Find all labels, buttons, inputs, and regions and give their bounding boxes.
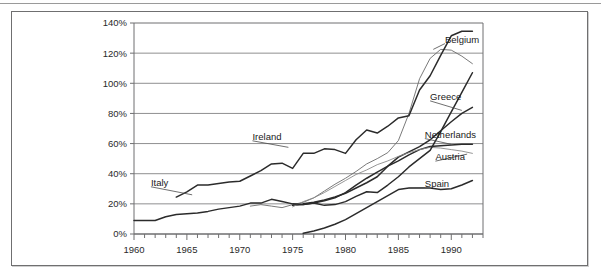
series-label-austria: Austria <box>435 151 465 162</box>
chart-page: 0%20%40%60%80%100%120%140% 1960196519701… <box>0 0 601 277</box>
x-tick-label: 1990 <box>441 244 462 255</box>
series-label-ireland: Ireland <box>252 131 281 142</box>
x-axis-tick-labels: 1960196519701975198019851990 <box>123 244 461 255</box>
y-axis-tick-labels: 0%20%40%60%80%100%120%140% <box>103 17 128 239</box>
series-line-italy <box>134 73 472 221</box>
y-tick-label: 120% <box>103 48 128 59</box>
series-line-ireland <box>176 31 472 197</box>
series-label-italy: Italy <box>151 177 169 188</box>
leader-line-belgium <box>433 44 445 50</box>
x-tick-label: 1985 <box>388 244 409 255</box>
leader-line-spain <box>409 188 425 189</box>
line-chart: 0%20%40%60%80%100%120%140% 1960196519701… <box>12 12 587 265</box>
data-series <box>134 31 472 233</box>
x-axis-ticks <box>134 234 483 240</box>
x-tick-label: 1975 <box>282 244 303 255</box>
x-tick-label: 1960 <box>123 244 144 255</box>
y-tick-label: 20% <box>108 198 128 209</box>
series-label-netherlands: Netherlands <box>425 129 476 140</box>
x-tick-label: 1980 <box>335 244 356 255</box>
page-top-rule <box>0 3 601 4</box>
x-tick-label: 1970 <box>229 244 250 255</box>
y-tick-label: 60% <box>108 138 128 149</box>
y-tick-label: 80% <box>108 108 128 119</box>
series-label-greece: Greece <box>430 91 461 102</box>
y-tick-label: 40% <box>108 168 128 179</box>
y-tick-label: 0% <box>113 228 127 239</box>
series-label-leaders <box>151 44 467 195</box>
leader-line-italy <box>151 187 192 195</box>
series-label-belgium: Belgium <box>445 34 479 45</box>
y-tick-label: 100% <box>103 78 128 89</box>
series-label-spain: Spain <box>425 178 449 189</box>
series-labels: BelgiumIrelandGreeceNetherlandsAustriaSp… <box>151 34 479 189</box>
x-tick-label: 1965 <box>176 244 197 255</box>
y-tick-label: 140% <box>103 17 128 28</box>
figure-frame: 0%20%40%60%80%100%120%140% 1960196519701… <box>11 11 588 266</box>
